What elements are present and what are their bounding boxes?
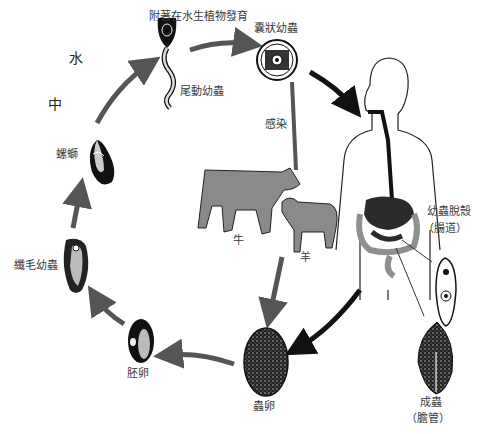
- sheep-icon: [282, 198, 337, 252]
- label-infection: 感染: [265, 118, 287, 131]
- label-sheep: 羊: [300, 251, 311, 264]
- miracidium-icon: [64, 239, 89, 293]
- label-excyst-line1: 幼蟲脫殼: [427, 205, 471, 218]
- human-body-icon: [336, 58, 440, 316]
- arrow-embryonated-to-miracidium: [96, 298, 124, 324]
- embryonated-egg-icon: [128, 319, 154, 363]
- label-cercaria-attach: 附著在水生植物發育: [149, 10, 248, 23]
- label-water: 水: [69, 52, 83, 65]
- label-embryonated-egg: 胚卵: [127, 367, 149, 380]
- arrow-egg-to-embryonated: [168, 354, 234, 364]
- label-in: 中: [48, 98, 62, 111]
- excysted-juvenile-icon: [436, 258, 456, 326]
- snail-icon: [90, 140, 114, 184]
- stomach: [364, 196, 414, 230]
- egg-icon: [244, 328, 288, 396]
- adult-fluke-icon: [418, 322, 453, 394]
- arrow-cercaria-to-metacercaria: [190, 43, 248, 50]
- arrow-animals-to-egg: [270, 257, 282, 314]
- label-miracidium: 纖毛幼蟲: [14, 259, 58, 272]
- label-cercaria: 尾動幼蟲: [180, 85, 224, 98]
- label-excyst-line2: （腸道）: [423, 222, 467, 235]
- fasciola-life-cycle-diagram: 附著在水生植物發育 尾動幼蟲 囊狀幼蟲 感染 水 中 螺螄 纖毛幼蟲 胚卵 蟲卵…: [0, 0, 483, 434]
- label-cow: 牛: [233, 234, 244, 247]
- label-egg: 蟲卵: [253, 400, 275, 413]
- label-adult-line1: 成蟲: [420, 396, 442, 409]
- arrow-metacercaria-to-human: [310, 72, 352, 106]
- label-metacercaria: 囊狀幼蟲: [254, 22, 298, 35]
- cercaria-icon: [158, 18, 177, 108]
- metacercaria-icon: [257, 40, 297, 80]
- label-adult-line2: （膽管）: [406, 412, 450, 425]
- arrow-snail-to-cercaria: [97, 65, 148, 123]
- arrow-human-to-egg: [298, 290, 360, 348]
- infection-line: [292, 82, 296, 170]
- label-snail: 螺螄: [56, 148, 78, 161]
- arrow-miracidium-to-snail: [73, 192, 80, 228]
